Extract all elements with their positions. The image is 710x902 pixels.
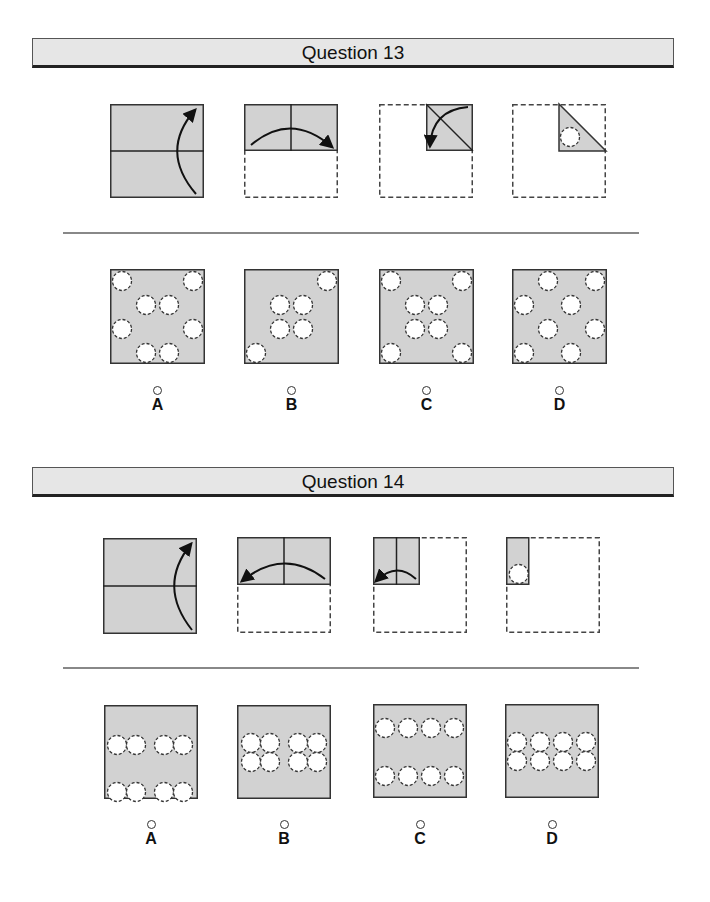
fold-step-2 [237, 537, 331, 633]
punched-hole [376, 767, 395, 786]
option-a-radio[interactable] [153, 386, 162, 395]
punched-hole [577, 733, 596, 752]
punched-hole [508, 733, 527, 752]
answer-option-c-figure [373, 704, 467, 798]
punched-hole [174, 736, 193, 755]
punched-hole [108, 736, 127, 755]
punched-hole [539, 272, 558, 291]
punched-hole [586, 320, 605, 339]
punched-hole [562, 344, 581, 363]
option-c-label[interactable]: C [412, 397, 442, 413]
punched-hole [155, 736, 174, 755]
option-d-radio[interactable] [548, 820, 557, 829]
option-b-radio[interactable] [280, 820, 289, 829]
punched-hole [271, 296, 290, 315]
option-d-label[interactable]: D [537, 831, 567, 847]
punched-hole [160, 296, 179, 315]
punched-hole [508, 752, 527, 771]
option-a-label[interactable]: A [143, 397, 173, 413]
punched-hole [261, 753, 280, 772]
punched-hole [160, 344, 179, 363]
punched-hole [294, 320, 313, 339]
punched-hole [453, 272, 472, 291]
punched-hole [289, 734, 308, 753]
punched-hole [406, 320, 425, 339]
option-d-radio[interactable] [555, 386, 564, 395]
punched-hole [289, 753, 308, 772]
question-header: Question 14 [32, 467, 674, 497]
punched-hole [137, 296, 156, 315]
answer-option-d-figure [505, 704, 599, 798]
punched-hole [108, 783, 127, 802]
punched-hole [515, 344, 534, 363]
punched-hole [586, 272, 605, 291]
punched-hole [561, 128, 580, 147]
punched-hole [184, 272, 203, 291]
fold-step-1 [103, 538, 197, 634]
punched-hole [127, 736, 146, 755]
punched-hole [453, 344, 472, 363]
fold-step-1 [110, 104, 204, 198]
fold-step-3 [373, 537, 467, 633]
option-c-label[interactable]: C [405, 831, 435, 847]
punched-hole [382, 344, 401, 363]
option-b-label[interactable]: B [277, 397, 307, 413]
section-divider [63, 232, 639, 234]
answer-option-b-figure [237, 705, 331, 799]
punched-hole [422, 719, 441, 738]
punched-hole [429, 296, 448, 315]
punched-hole [376, 719, 395, 738]
punched-hole [247, 344, 266, 363]
punched-hole [422, 767, 441, 786]
option-b-radio[interactable] [287, 386, 296, 395]
punched-hole [539, 320, 558, 339]
option-d-label[interactable]: D [545, 397, 575, 413]
punched-hole [318, 272, 337, 291]
option-a-radio[interactable] [147, 820, 156, 829]
punched-hole [531, 752, 550, 771]
punched-hole [399, 767, 418, 786]
punched-hole [531, 733, 550, 752]
punched-hole [554, 733, 573, 752]
option-b-label[interactable]: B [269, 831, 299, 847]
punched-hole [184, 320, 203, 339]
question-header: Question 13 [32, 38, 674, 68]
punched-hole [174, 783, 193, 802]
answer-option-c-figure [379, 269, 474, 364]
punched-hole [113, 272, 132, 291]
punched-hole [562, 296, 581, 315]
answer-option-a-figure [104, 705, 198, 799]
fold-step-3 [379, 104, 473, 198]
punched-hole [577, 752, 596, 771]
answer-option-d-figure [512, 269, 607, 364]
option-a-label[interactable]: A [136, 831, 166, 847]
option-c-radio[interactable] [416, 820, 425, 829]
punched-hole [155, 783, 174, 802]
punched-hole [509, 565, 528, 584]
punched-hole [242, 753, 261, 772]
fold-step-4 [512, 104, 606, 198]
answer-option-a-figure [110, 269, 205, 364]
fold-step-4 [506, 537, 600, 633]
punched-hole [399, 719, 418, 738]
section-divider [63, 667, 639, 669]
punched-hole [271, 320, 290, 339]
punched-hole [554, 752, 573, 771]
punched-hole [113, 320, 132, 339]
answer-option-b-figure [244, 269, 339, 364]
punched-hole [406, 296, 425, 315]
punched-hole [308, 753, 327, 772]
punched-hole [445, 719, 464, 738]
punched-hole [429, 320, 448, 339]
punched-hole [382, 272, 401, 291]
punched-hole [261, 734, 280, 753]
punched-hole [445, 767, 464, 786]
option-c-radio[interactable] [422, 386, 431, 395]
punched-hole [137, 344, 156, 363]
punched-hole [308, 734, 327, 753]
punched-hole [294, 296, 313, 315]
punched-hole [127, 783, 146, 802]
punched-hole [242, 734, 261, 753]
punched-hole [515, 296, 534, 315]
fold-step-2 [244, 104, 338, 198]
